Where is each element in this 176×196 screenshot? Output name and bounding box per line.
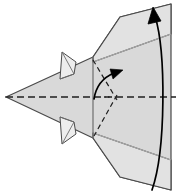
apex-point-marker	[5, 96, 7, 98]
origami-figure-container: Origami folding step diagram Shaded kite…	[0, 0, 176, 196]
origami-diagram-svg: Origami folding step diagram Shaded kite…	[0, 0, 176, 196]
